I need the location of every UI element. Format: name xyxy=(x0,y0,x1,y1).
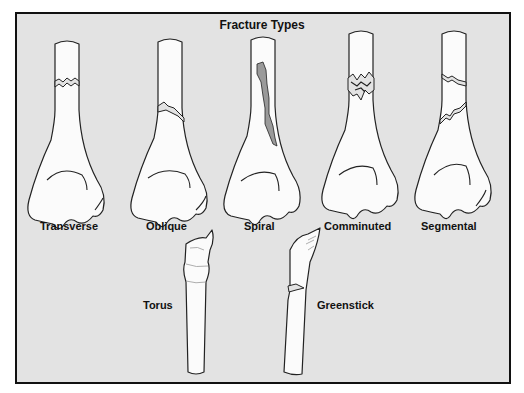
label-comminuted: Comminuted xyxy=(324,220,391,232)
label-spiral: Spiral xyxy=(244,220,275,232)
bone-transverse xyxy=(28,41,104,229)
label-segmental: Segmental xyxy=(421,220,477,232)
fracture-illustrations xyxy=(0,0,524,393)
label-oblique: Oblique xyxy=(146,220,187,232)
bone-torus xyxy=(184,230,213,374)
bone-comminuted xyxy=(322,31,398,219)
bone-oblique xyxy=(131,39,207,227)
bone-greenstick xyxy=(284,228,320,375)
bone-segmental xyxy=(415,31,491,219)
label-transverse: Transverse xyxy=(40,220,98,232)
bone-spiral xyxy=(224,37,300,225)
label-greenstick: Greenstick xyxy=(317,299,374,311)
label-torus: Torus xyxy=(143,299,173,311)
